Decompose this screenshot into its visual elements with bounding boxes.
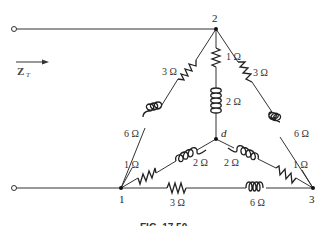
label-r-2-d: 1 Ω [226, 51, 241, 62]
node-d-dot [214, 137, 218, 141]
zt-subscript: T [26, 71, 31, 79]
branch-2-d [211, 29, 222, 139]
label-l-1-3: 6 Ω [250, 197, 265, 208]
bottom-terminal [12, 186, 17, 191]
node-2-dot [214, 27, 218, 31]
node-2-label: 2 [212, 12, 218, 24]
label-l-2-1: 6 Ω [124, 128, 139, 139]
input-wires [12, 27, 217, 191]
label-l-1-d: 2 Ω [193, 157, 208, 168]
label-r-2-3: 3 Ω [253, 67, 268, 78]
node-3-label: 3 [309, 193, 315, 205]
top-terminal [12, 27, 17, 32]
node-d-label: d [221, 127, 227, 139]
zt-label: Z [17, 65, 24, 77]
label-r-2-1: 3 Ω [162, 66, 177, 77]
label-r-1-3: 3 Ω [170, 197, 185, 208]
node-3-dot [311, 186, 315, 190]
node-1-dot [119, 186, 123, 190]
label-r-1-d: 1 Ω [124, 159, 139, 170]
label-r-3-d: 1 Ω [293, 159, 308, 170]
circuit-diagram: Z T [0, 0, 329, 226]
node-1-label: 1 [119, 193, 125, 205]
figure-caption: FIG. 17.50 [140, 222, 188, 226]
label-l-2-3: 6 Ω [294, 128, 309, 139]
branch-1-3 [121, 182, 313, 193]
zt-arrow: Z T [16, 60, 49, 80]
label-l-2-d: 2 Ω [226, 96, 241, 107]
label-l-3-d: 2 Ω [224, 157, 239, 168]
